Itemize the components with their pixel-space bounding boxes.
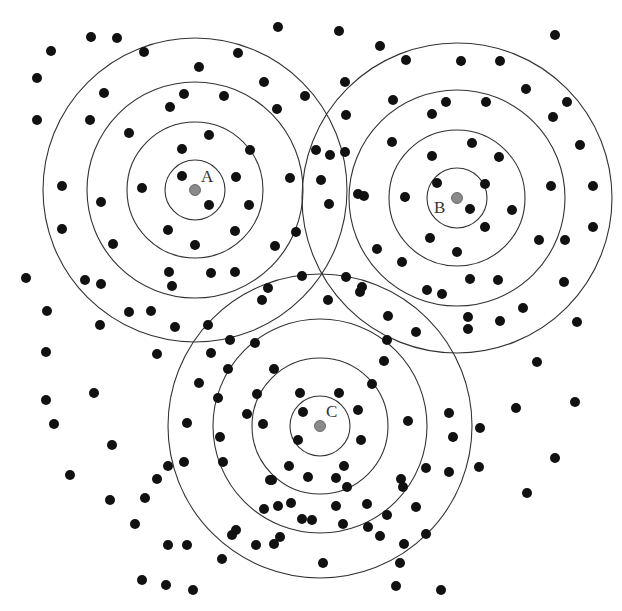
scatter-dot: [273, 501, 283, 511]
scatter-dot: [259, 77, 269, 87]
scatter-dot: [140, 493, 150, 503]
scatter-dot: [107, 440, 117, 450]
scatter-dot: [521, 84, 531, 94]
scatter-dot: [548, 112, 558, 122]
scatter-dot: [403, 416, 413, 426]
scatter-dot: [441, 97, 451, 107]
scatter-dot: [32, 73, 42, 83]
scatter-dot: [340, 147, 350, 157]
scatter-dot: [146, 306, 156, 316]
scatter-dot: [550, 30, 560, 40]
scatter-dot: [108, 239, 118, 249]
scatter-dot: [448, 432, 458, 442]
scatter-dot: [463, 312, 473, 322]
scatter-dot: [89, 388, 99, 398]
scatter-dot: [137, 183, 147, 193]
scatter-dot: [297, 514, 307, 524]
scatter-dot: [570, 397, 580, 407]
scatter-dot: [139, 47, 149, 57]
scatter-dot: [167, 281, 177, 291]
scatter-dot: [230, 267, 240, 277]
scatter-dot: [96, 197, 106, 207]
scatter-dot: [495, 316, 505, 326]
scatter-dot: [96, 279, 106, 289]
scatter-dot: [152, 474, 162, 484]
scatter-dot: [494, 152, 504, 162]
scatter-dot: [275, 532, 285, 542]
center-label-a: A: [201, 167, 214, 186]
scatter-dot: [341, 272, 351, 282]
scatter-dot: [179, 89, 189, 99]
scatter-dot: [152, 349, 162, 359]
scatter-dot: [182, 418, 192, 428]
scatter-dot: [372, 244, 382, 254]
scatter-dot: [206, 348, 216, 358]
scatter-dot: [250, 338, 260, 348]
scatter-dot: [427, 109, 437, 119]
scatter-dot: [188, 585, 198, 595]
scatter-dot: [206, 268, 216, 278]
scatter-dot: [65, 470, 75, 480]
scatter-dot: [465, 274, 475, 284]
scatter-dot: [316, 175, 326, 185]
scatter-dot: [522, 488, 532, 498]
scatter-dot: [367, 379, 377, 389]
scatter-dot: [112, 33, 122, 43]
scatter-dot: [465, 204, 475, 214]
scatter-dot: [399, 539, 409, 549]
scatter-dot: [46, 46, 56, 56]
scatter-dot: [353, 405, 363, 415]
scatter-dot: [57, 224, 67, 234]
scatter-dot: [21, 273, 31, 283]
scatter-dot: [588, 181, 598, 191]
scatter-dot: [475, 423, 485, 433]
scatter-dot: [411, 327, 421, 337]
scatter-dot: [95, 320, 105, 330]
center-point-c: [315, 421, 326, 432]
scatter-dot: [532, 357, 542, 367]
scatter-dot: [359, 191, 369, 201]
scatter-dot: [382, 335, 392, 345]
scatter-dot: [339, 461, 349, 471]
scatter-dot: [562, 97, 572, 107]
scatter-dot: [334, 26, 344, 36]
scatter-dot: [161, 580, 171, 590]
scatter-dot: [190, 240, 200, 250]
scatter-dot: [559, 277, 569, 287]
scatter-dot: [182, 540, 192, 550]
scatter-dot: [194, 62, 204, 72]
scatter-dot: [177, 144, 187, 154]
scatter-dot: [495, 56, 505, 66]
scatter-dot: [215, 432, 225, 442]
scatter-dot: [124, 307, 134, 317]
scatter-dot: [398, 482, 408, 492]
scatter-dot: [230, 226, 240, 236]
scatter-dot: [130, 519, 140, 529]
scatter-dot: [379, 356, 389, 366]
scatter-dot: [177, 171, 187, 181]
scatter-dot: [481, 97, 491, 107]
scatter-dot: [421, 529, 431, 539]
scatter-dot: [269, 364, 279, 374]
center-point-b: [452, 193, 463, 204]
scatter-dot: [163, 225, 173, 235]
scatter-dot: [273, 22, 283, 32]
center-label-b: B: [434, 198, 445, 217]
scatter-dot: [42, 306, 52, 316]
scatter-dot: [432, 178, 442, 188]
scatter-dot: [395, 558, 405, 568]
scatter-dot: [340, 77, 350, 87]
scatter-dot: [388, 95, 398, 105]
center-point-a: [190, 185, 201, 196]
scatter-dot: [213, 393, 223, 403]
scatter-dot: [437, 289, 447, 299]
scatter-dot: [85, 115, 95, 125]
scatter-dot: [456, 56, 466, 66]
scatter-dot: [219, 91, 229, 101]
scatter-dot: [272, 104, 282, 114]
scatter-dot: [436, 585, 446, 595]
scatter-dot: [218, 457, 228, 467]
scatter-dot: [307, 515, 317, 525]
scatter-dot: [480, 222, 490, 232]
scatter-dot: [179, 457, 189, 467]
